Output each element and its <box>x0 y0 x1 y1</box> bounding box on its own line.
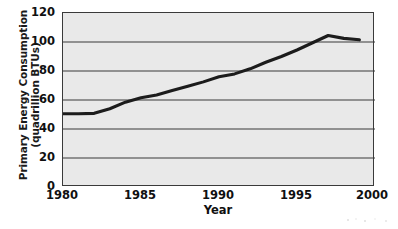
y-tick-80: 80 <box>17 63 55 77</box>
plot-svg <box>63 13 375 187</box>
scan-artifact <box>342 215 396 227</box>
data-series-line <box>63 35 359 113</box>
x-tick-1985: 1985 <box>110 188 170 202</box>
horizontal-gridlines <box>63 42 375 158</box>
y-tick-60: 60 <box>17 92 55 106</box>
x-tick-1990: 1990 <box>188 188 248 202</box>
x-tick-1980: 1980 <box>32 188 92 202</box>
energy-consumption-line-chart: Primary Energy Consumption (quadrillion … <box>0 0 398 229</box>
y-tick-20: 20 <box>17 150 55 164</box>
x-axis-label: Year <box>62 203 374 217</box>
plot-area <box>62 12 374 186</box>
y-tick-120: 120 <box>17 5 55 19</box>
y-tick-40: 40 <box>17 121 55 135</box>
x-tick-2000: 2000 <box>342 188 398 202</box>
x-tick-1995: 1995 <box>266 188 326 202</box>
y-tick-100: 100 <box>17 34 55 48</box>
